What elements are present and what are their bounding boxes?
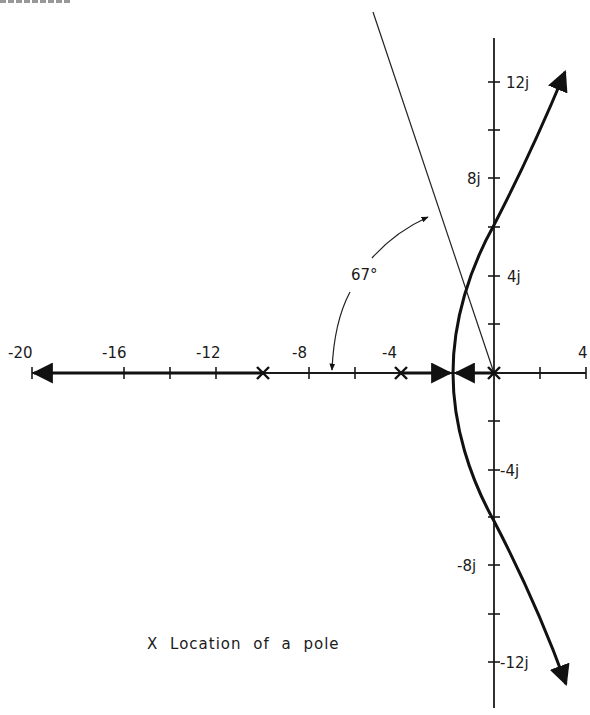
real-tick-label: -20 [8,344,33,362]
angle-arc-lower [332,292,350,370]
real-tick-label: -12 [196,344,221,362]
imag-tick-label: -12j [500,654,529,672]
real-tick-label: -4 [382,344,397,362]
lower-complex-branch [453,373,566,684]
real-tick-label: -8 [292,344,307,362]
angle-annotation: 67° [332,217,428,370]
angle-label: 67° [351,266,378,284]
asymptote-line [373,12,494,373]
imag-tick-label: -8j [457,557,476,575]
legend: X Location of a pole [147,635,340,653]
real-tick-label: -16 [102,344,127,362]
real-tick-label: 4 [578,344,588,362]
imag-tick-label: 12j [506,74,529,92]
upper-complex-branch [453,72,565,373]
imag-tick-label: 4j [507,268,521,286]
imag-tick-label: 8j [467,170,481,188]
imag-tick-label: -4j [500,462,519,480]
angle-arc-upper [372,217,428,258]
root-locus-diagram: -20 -16 -12 -8 -4 4 12j 8j 4j -4j -8j -1… [0,0,590,715]
